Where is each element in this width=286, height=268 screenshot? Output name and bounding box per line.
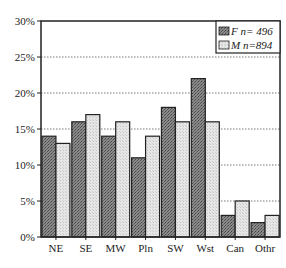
y-tick-label: 25% [15, 51, 35, 63]
y-tick-label: 0% [20, 231, 35, 243]
y-tick-label: 15% [15, 123, 35, 135]
bar-can-m [235, 201, 249, 237]
y-axis: 0%5%10%15%20%25%30% [15, 15, 41, 243]
bar-othr-m [265, 215, 279, 237]
x-tick-label: NE [49, 242, 64, 254]
bar-ne-m [56, 143, 70, 237]
legend: F n= 496 M n=894 [216, 21, 280, 53]
bar-othr-f [251, 223, 265, 237]
bar-se-m [86, 115, 100, 237]
legend-swatch-f [219, 27, 229, 35]
y-tick-label: 10% [15, 159, 35, 171]
x-tick-label: Pln [138, 242, 153, 254]
y-tick-label: 30% [15, 15, 35, 27]
bars [42, 79, 279, 237]
x-tick-label: SW [167, 242, 184, 254]
bar-ne-f [42, 136, 56, 237]
bar-wst-f [191, 79, 205, 237]
bar-pln-m [146, 136, 160, 237]
x-tick-label: SE [79, 242, 92, 254]
bar-mw-m [116, 122, 130, 237]
x-tick-label: Can [226, 242, 244, 254]
x-tick-label: Othr [255, 242, 276, 254]
y-tick-label: 20% [15, 87, 35, 99]
bar-sw-f [161, 107, 175, 237]
legend-swatch-m [219, 41, 229, 49]
bar-can-f [221, 215, 235, 237]
bar-chart: 0%5%10%15%20%25%30% NESEMWPlnSWWstCanOth… [0, 0, 286, 268]
bar-mw-f [102, 136, 116, 237]
x-axis: NESEMWPlnSWWstCanOthr [49, 237, 276, 254]
bar-wst-m [205, 122, 219, 237]
y-tick-label: 5% [20, 195, 35, 207]
legend-label-m: M n=894 [230, 39, 273, 51]
bar-sw-m [175, 122, 189, 237]
bar-pln-f [132, 158, 146, 237]
x-tick-label: MW [106, 242, 127, 254]
legend-label-f: F n= 496 [230, 25, 273, 37]
x-tick-label: Wst [196, 242, 214, 254]
bar-se-f [72, 122, 86, 237]
